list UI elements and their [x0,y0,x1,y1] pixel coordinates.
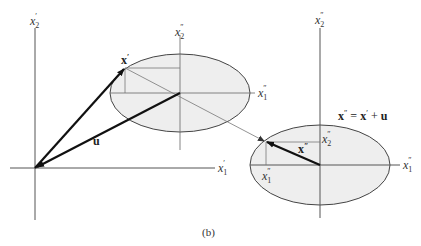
vector-x-prime [35,69,124,168]
component-x2-label: x2″ [321,130,331,148]
x2-double-prime-label-one: x2″ [174,23,184,41]
x1-prime-label: x1′ [217,159,227,177]
x2-prime-label: x2′ [29,12,39,30]
vector-translation-diagram: x2′ x1′ x2″ x1″ x′ u x2″ x1″ x2″ x1″ x″ … [0,0,421,246]
translation-equation: x″ = x′ + u [338,109,388,123]
point-x-prime-label: x′ [121,53,129,67]
x2-double-prime-label-two: x2″ [314,11,324,29]
x1-double-prime-label-one: x1″ [257,84,267,102]
component-x1-label: x1″ [261,167,271,185]
vector-u-label: u [93,134,100,148]
figure-caption: (b) [202,226,215,239]
x1-double-prime-label-two: x1″ [402,156,412,174]
